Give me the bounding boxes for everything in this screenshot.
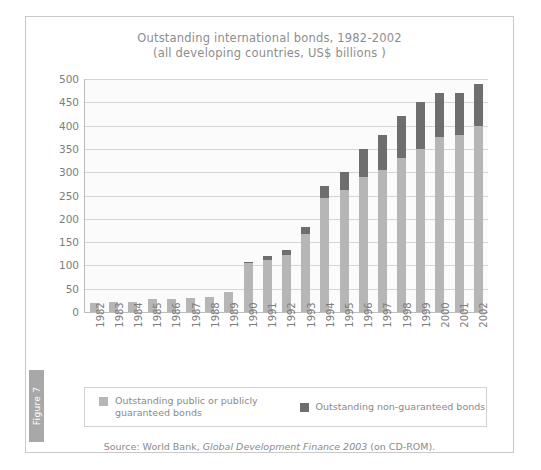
bar-column: 1982: [85, 79, 104, 312]
y-axis-tick-label: 300: [59, 166, 79, 178]
legend-label-public-guaranteed: Outstanding public or publicly guarantee…: [115, 395, 286, 419]
y-axis-tick-label: 0: [72, 306, 79, 318]
source-note: Source: World Bank, Global Development F…: [26, 441, 513, 452]
bar-segment-non-guaranteed: [416, 102, 425, 149]
bar-column: 1983: [104, 79, 123, 312]
legend-item-public-guaranteed: Outstanding public or publicly guarantee…: [85, 395, 286, 419]
stacked-bar: [416, 102, 425, 312]
bar-segment-public-guaranteed: [359, 177, 368, 312]
bar-segment-public-guaranteed: [416, 149, 425, 312]
bar-column: 1988: [200, 79, 219, 312]
bar-column: 1991: [258, 79, 277, 312]
bar-column: 1990: [239, 79, 258, 312]
y-axis-tick-label: 100: [59, 259, 79, 271]
figure-number-tab: Figure 7: [29, 370, 44, 442]
source-suffix: (on CD-ROM).: [367, 441, 435, 452]
stacked-bar: [340, 172, 349, 312]
bar-segment-public-guaranteed: [474, 126, 483, 312]
bar-segment-non-guaranteed: [359, 149, 368, 177]
bar-segment-public-guaranteed: [397, 158, 406, 312]
x-axis-tick-label: 2002: [478, 302, 489, 327]
chart-title: Outstanding international bonds, 1982-20…: [26, 31, 513, 61]
y-axis-tick-label: 150: [59, 236, 79, 248]
bar-column: 1986: [162, 79, 181, 312]
bar-segment-non-guaranteed: [455, 93, 464, 135]
bar-segment-non-guaranteed: [320, 186, 329, 198]
bar-column: 1994: [315, 79, 334, 312]
y-axis-tick-label: 450: [59, 96, 79, 108]
bar-segment-public-guaranteed: [378, 170, 387, 312]
bar-segment-non-guaranteed: [378, 135, 387, 170]
stacked-bar: [378, 135, 387, 312]
plot-area: 050100150200250300350400450500 198219831…: [84, 79, 488, 313]
bar-column: 1989: [219, 79, 238, 312]
y-axis-tick-label: 50: [66, 283, 79, 295]
bar-segment-non-guaranteed: [435, 93, 444, 137]
bar-column: 1985: [143, 79, 162, 312]
bar-column: 1999: [411, 79, 430, 312]
stacked-bar: [474, 84, 483, 312]
bar-column: 1998: [392, 79, 411, 312]
bar-column: 2000: [430, 79, 449, 312]
stacked-bar: [455, 93, 464, 312]
source-prefix: Source: World Bank,: [104, 441, 203, 452]
bar-column: 2001: [450, 79, 469, 312]
bar-segment-public-guaranteed: [301, 234, 310, 312]
bar-segment-public-guaranteed: [455, 135, 464, 312]
bar-segment-non-guaranteed: [474, 84, 483, 126]
bar-segment-non-guaranteed: [340, 172, 349, 190]
chart-title-main: Outstanding international bonds, 1982-20…: [26, 31, 513, 46]
bar-column: 1996: [354, 79, 373, 312]
y-axis-tick-label: 350: [59, 143, 79, 155]
stacked-bar: [359, 149, 368, 312]
legend-item-non-guaranteed: Outstanding non-guaranteed bonds: [286, 401, 487, 413]
stacked-bar: [435, 93, 444, 312]
legend-swatch-icon-light: [99, 397, 108, 406]
bar-segment-public-guaranteed: [435, 137, 444, 312]
figure-frame: Outstanding international bonds, 1982-20…: [25, 16, 514, 453]
bar-column: 1993: [296, 79, 315, 312]
y-axis-tick-label: 400: [59, 120, 79, 132]
stacked-bar: [301, 227, 310, 312]
bar-column: 1992: [277, 79, 296, 312]
y-axis-tick-label: 500: [59, 73, 79, 85]
chart-subtitle: (all developing countries, US$ billions …: [26, 46, 513, 61]
chart-legend: Outstanding public or publicly guarantee…: [84, 387, 487, 427]
y-axis-tick-label: 250: [59, 190, 79, 202]
bar-series-container: 1982198319841985198619871988198919901991…: [85, 79, 488, 312]
bar-column: 2002: [469, 79, 488, 312]
figure-number-label: Figure 7: [32, 387, 42, 425]
bar-segment-public-guaranteed: [340, 190, 349, 312]
bar-column: 1987: [181, 79, 200, 312]
legend-label-non-guaranteed: Outstanding non-guaranteed bonds: [316, 401, 486, 413]
stacked-bar: [397, 116, 406, 312]
legend-swatch-icon-dark: [300, 403, 309, 412]
bar-segment-public-guaranteed: [320, 198, 329, 312]
bar-segment-non-guaranteed: [397, 116, 406, 158]
bar-column: 1984: [123, 79, 142, 312]
source-title: Global Development Finance 2003: [203, 441, 368, 452]
stacked-bar: [320, 186, 329, 312]
bar-column: 1995: [334, 79, 353, 312]
y-axis-tick-label: 200: [59, 213, 79, 225]
bar-column: 1997: [373, 79, 392, 312]
